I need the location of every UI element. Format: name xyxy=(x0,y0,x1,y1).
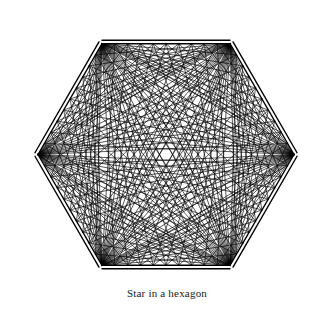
figure-root: Star in a hexagon xyxy=(0,0,334,309)
star-in-a-hexagon-figure xyxy=(0,0,334,309)
figure-caption: Star in a hexagon xyxy=(0,286,334,300)
